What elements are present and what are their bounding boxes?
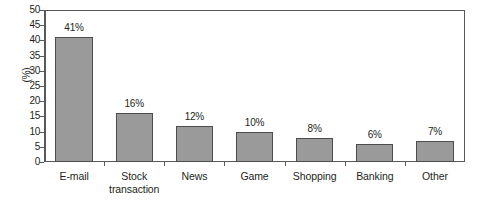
x-axis-tick-mark [345,162,346,166]
x-axis-category-label: Banking [345,170,405,183]
y-axis-tick-label: 40 [18,35,40,45]
bar [55,37,92,162]
y-axis-tick-labels: 05101520253035404550 [18,10,40,162]
x-axis-category-label: Other [405,170,465,183]
bar [236,132,273,162]
bar-value-label: 10% [224,118,284,128]
bar-value-label: 12% [164,112,224,122]
bar-value-label: 8% [285,124,345,134]
bar [356,144,393,162]
y-axis-tick-label: 5 [18,142,40,152]
y-axis-tick-label: 50 [18,5,40,15]
x-axis-tick-mark [164,162,165,166]
x-axis-category-label: Stock transaction [104,170,164,195]
bar-value-label: 7% [405,127,465,137]
x-axis-tick-mark [285,162,286,166]
y-axis-tick-label: 10 [18,127,40,137]
bar-value-label: 6% [345,130,405,140]
bar-chart: (%) 05101520253035404550 41%16%12%10%8%6… [0,0,477,211]
bar [416,141,453,162]
y-axis-tick-label: 0 [18,157,40,167]
x-axis-tick-mark [104,162,105,166]
y-axis-tick-label: 25 [18,81,40,91]
y-axis-tick-label: 20 [18,96,40,106]
y-axis-tick-label: 15 [18,111,40,121]
y-axis-tick-label: 35 [18,51,40,61]
bar-value-label: 16% [104,99,164,109]
bar [116,113,153,162]
bar-value-label: 41% [44,23,104,33]
x-axis-category-label: Shopping [285,170,345,183]
y-axis-tick-label: 30 [18,66,40,76]
y-axis-tick-mark [39,162,44,163]
x-axis-category-label: E-mail [44,170,104,183]
bar [176,126,213,162]
y-axis-tick-label: 45 [18,20,40,30]
bars-layer: 41%16%12%10%8%6%7% [44,10,465,162]
x-axis-category-label: News [164,170,224,183]
bar [296,138,333,162]
x-axis-tick-mark [224,162,225,166]
x-axis-tick-mark [405,162,406,166]
x-axis-category-label: Game [224,170,284,183]
